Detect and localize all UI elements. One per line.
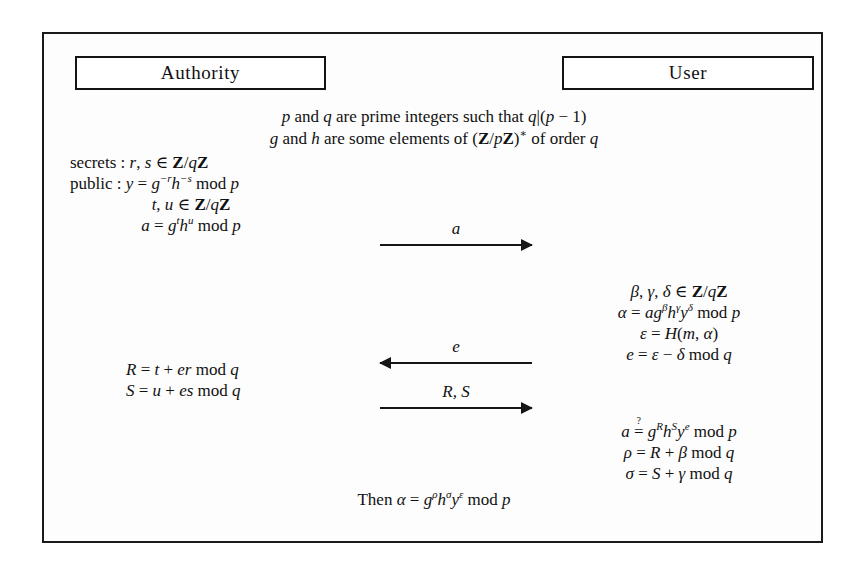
user-alpha-line: α = agβhγyδ mod p <box>544 302 814 323</box>
protocol-diagram-frame: Authority User p and q are prime integer… <box>42 32 823 543</box>
message-label-rs: R, S <box>380 383 532 401</box>
message-arrow-a: a <box>380 220 532 254</box>
authority-parameters: secrets : r, s ∈ Z/qZ public : y = g−rh−… <box>70 152 370 236</box>
setup-assumptions: p and q are prime integers such that q|(… <box>124 106 744 150</box>
user-blinding-block: β, γ, δ ∈ Z/qZ α = agβhγyδ mod p ε = H(m… <box>544 281 814 365</box>
message-label-e: e <box>380 338 532 356</box>
user-epsilon-line: ε = H(m, α) <box>544 323 814 344</box>
arrow-head-left-icon <box>379 357 391 369</box>
authority-label: Authority <box>161 62 240 84</box>
arrow-shaft <box>380 244 532 246</box>
arrow-shaft <box>380 407 532 409</box>
user-rho-line: ρ = R + β mod q <box>544 442 814 463</box>
public-label: public <box>70 174 113 193</box>
conclusion-lead-word: Then <box>357 490 392 509</box>
setup-line-1: p and q are prime integers such that q|(… <box>124 106 744 127</box>
message-arrow-rs: R, S <box>380 383 532 417</box>
authority-S-line: S = u + es mod q <box>126 380 356 401</box>
authority-R-line: R = t + er mod q <box>126 359 356 380</box>
authority-response-block: R = t + er mod q S = u + es mod q <box>126 359 356 401</box>
arrow-head-right-icon <box>521 239 533 251</box>
user-party-box: User <box>562 56 814 90</box>
arrow-head-right-icon <box>521 402 533 414</box>
secrets-label: secrets <box>70 153 116 172</box>
user-verification-block: a ?= gRhSye mod p ρ = R + β mod q σ = S … <box>544 421 814 484</box>
authority-nonce-line: t, u ∈ Z/qZ <box>70 194 370 215</box>
message-arrow-e: e <box>380 338 532 372</box>
authority-public-line: public : y = g−rh−s mod p <box>70 173 370 194</box>
user-challenge-line: e = ε − δ mod q <box>544 344 814 365</box>
user-sigma-line: σ = S + γ mod q <box>544 463 814 484</box>
authority-commitment-line: a = gthu mod p <box>70 215 370 236</box>
conclusion-line: Then α = gρhσyε mod p <box>204 489 664 510</box>
setup-line-2: g and h are some elements of (Z/pZ)∗ of … <box>124 128 744 149</box>
arrow-shaft <box>380 362 532 364</box>
authority-party-box: Authority <box>75 56 326 90</box>
user-blind-randoms-line: β, γ, δ ∈ Z/qZ <box>544 281 814 302</box>
user-verify-check-line: a ?= gRhSye mod p <box>544 421 814 442</box>
message-label-a: a <box>380 220 532 238</box>
authority-secrets-line: secrets : r, s ∈ Z/qZ <box>70 152 370 173</box>
user-label: User <box>669 62 707 84</box>
